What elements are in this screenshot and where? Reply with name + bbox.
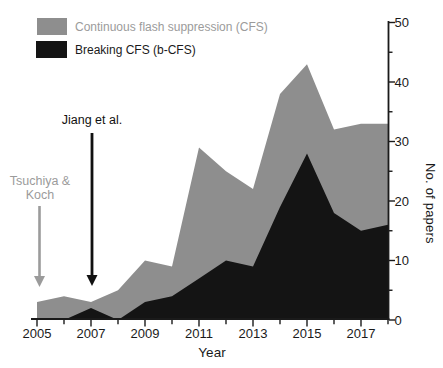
tsuchiya-koch-down-arrow-icon bbox=[34, 206, 45, 287]
x-tick-label-2015: 2015 bbox=[293, 326, 322, 341]
legend-swatch-bcfs bbox=[36, 41, 67, 58]
y-tick-label-30: 30 bbox=[395, 134, 409, 149]
x-tick-label-2007: 2007 bbox=[77, 326, 106, 341]
x-tick-label-2017: 2017 bbox=[347, 326, 376, 341]
y-axis-ticks: 01020304050 bbox=[389, 15, 409, 328]
y-tick-label-50: 50 bbox=[395, 15, 409, 30]
y-tick-label-10: 10 bbox=[395, 253, 409, 268]
x-tick-label-2009: 2009 bbox=[131, 326, 160, 341]
x-axis-ticks: 2005200720092011201320152017 bbox=[23, 320, 388, 341]
annotation-tsuchiya-koch: Tsuchiya & Koch bbox=[4, 174, 76, 202]
jiang-down-arrow-icon bbox=[87, 133, 98, 286]
legend-label-bcfs: Breaking CFS (b-CFS) bbox=[75, 43, 196, 57]
y-tick-label-20: 20 bbox=[395, 194, 409, 209]
cfs-papers-figure: 2005200720092011201320152017 01020304050… bbox=[0, 0, 443, 368]
legend-label-cfs: Continuous flash suppression (CFS) bbox=[75, 20, 268, 34]
y-axis-title: No. of papers bbox=[423, 136, 438, 270]
x-tick-label-2011: 2011 bbox=[185, 326, 213, 341]
y-tick-label-40: 40 bbox=[395, 75, 409, 90]
y-tick-label-0: 0 bbox=[395, 313, 402, 328]
legend-swatch-cfs bbox=[37, 18, 67, 35]
x-axis-title: Year bbox=[182, 345, 242, 360]
x-tick-label-2005: 2005 bbox=[23, 326, 52, 341]
annotation-jiang: Jiang et al. bbox=[56, 113, 128, 127]
x-tick-label-2013: 2013 bbox=[239, 326, 268, 341]
